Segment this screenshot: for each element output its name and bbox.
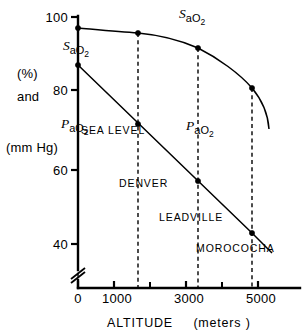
y-axis-title-and: and: [17, 89, 39, 104]
svg-text:PaO2: PaO2: [146, 116, 245, 140]
sao2-point-denver: [135, 30, 140, 35]
site-label-morococha: MOROCOCHA: [196, 242, 275, 254]
y-tick-label-60: 60: [53, 163, 68, 178]
x-axis-title-units: (meters ): [193, 316, 250, 330]
pao2-point-sea-level: [75, 62, 80, 67]
y-axis-title-sao2-symbol: SaO2: [14, 36, 129, 60]
svg-text:SaO2: SaO2: [14, 36, 129, 60]
x-tick-label-1000: 1000: [102, 291, 132, 306]
pao2-point-morococha: [249, 230, 254, 235]
curve-label-sao2: SaO2: [139, 4, 236, 28]
curve-label-pao2-letter: P: [185, 118, 194, 133]
sao2-point-sea-level: [75, 25, 80, 30]
y-axis-title-percent: (%): [17, 66, 38, 81]
y-tick-label-100: 100: [45, 10, 68, 25]
pao2-series: [75, 62, 272, 253]
y-axis-title-units: (mm Hg): [6, 140, 58, 155]
y-tick-label-40: 40: [53, 237, 68, 252]
curve-label-sao2-sub-2: 2: [200, 17, 205, 27]
site-label-denver: DENVER: [119, 177, 168, 189]
pao2-symbol-letter: P: [60, 116, 69, 131]
svg-text:SaO2: SaO2: [139, 4, 236, 28]
chart-figure: 100 80 60 40 0 1000 3000 5000 ALTITUDE (…: [0, 0, 307, 335]
y-tick-label-80: 80: [53, 83, 68, 98]
x-tick-label-3000: 3000: [174, 291, 204, 306]
x-axis-title-main: ALTITUDE: [107, 316, 173, 330]
sao2-point-morococha: [249, 85, 254, 90]
x-axis-title: ALTITUDE (meters ): [107, 316, 251, 330]
sao2-series: [75, 25, 269, 129]
site-label-sea-level: SEA LEVEL: [81, 124, 145, 136]
curve-label-pao2-sub-2: 2: [209, 129, 214, 139]
sao2-pao2-altitude-chart: 100 80 60 40 0 1000 3000 5000 ALTITUDE (…: [0, 0, 307, 335]
sao2-symbol-sub-2: 2: [84, 49, 89, 59]
x-tick-label-0: 0: [74, 291, 82, 306]
x-tick-group: 0 1000 3000 5000: [74, 281, 276, 306]
pao2-line: [78, 65, 272, 253]
x-tick-label-5000: 5000: [246, 291, 276, 306]
site-label-group: SEA LEVEL DENVER LEADVILLE MOROCOCHA: [81, 124, 275, 254]
curve-label-pao2: PaO2: [146, 116, 245, 140]
site-label-leadville: LEADVILLE: [159, 211, 223, 223]
sao2-point-leadville: [195, 45, 200, 50]
pao2-point-leadville: [195, 178, 200, 183]
